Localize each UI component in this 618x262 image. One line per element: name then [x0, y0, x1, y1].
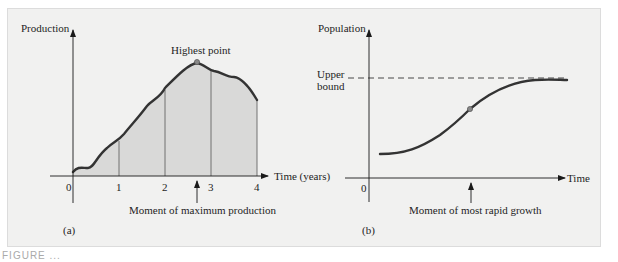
y-axis-label-b: Population	[318, 22, 366, 34]
highest-point-label: Highest point	[171, 44, 231, 56]
x-tick-2: 2	[162, 181, 168, 193]
upper-bound-label-line2: bound	[317, 80, 345, 92]
x-axis-label-b: Time	[567, 172, 590, 184]
chart-b: Population Time Upper bound 0 Moment of …	[317, 22, 590, 237]
panel-label-a: (a)	[63, 224, 76, 237]
figure-svg: Production Time (years) Highest point 0 …	[0, 0, 618, 262]
highest-point-marker	[194, 59, 199, 64]
x-axis-label-a: Time (years)	[274, 170, 330, 183]
y-axis-label-a: Production	[21, 22, 70, 34]
max-production-label: Moment of maximum production	[129, 204, 276, 216]
x-tick-3: 3	[208, 181, 214, 193]
chart-a: Production Time (years) Highest point 0 …	[21, 22, 330, 237]
inflection-point-marker	[467, 106, 472, 111]
upper-bound-label-line1: Upper	[317, 68, 345, 80]
x-tick-4: 4	[254, 181, 260, 193]
rapid-growth-label: Moment of most rapid growth	[409, 204, 542, 216]
population-curve	[380, 80, 567, 154]
x-tick-1: 1	[116, 181, 122, 193]
panel-label-b: (b)	[362, 224, 375, 237]
x-tick-0: 0	[66, 181, 72, 193]
figure-caption-fragment: FIGURE ...	[2, 250, 61, 262]
x-tick-0-b: 0	[361, 182, 367, 194]
